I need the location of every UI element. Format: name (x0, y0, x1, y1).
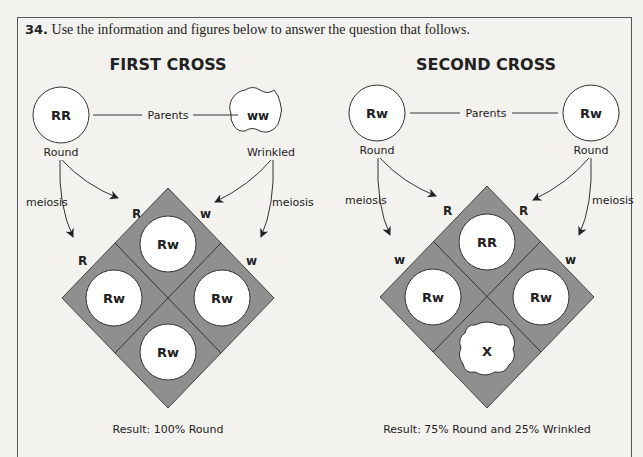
meiosis-arrow (579, 158, 591, 235)
offspring-genotype: Rw (157, 345, 179, 360)
second-cross-result: Result: 75% Round and 25% Wrinkled (383, 423, 591, 436)
meiosis-label: meiosis (345, 194, 387, 207)
offspring-genotype: X (482, 344, 492, 359)
offspring-genotype: Rw (103, 291, 125, 306)
offspring-genotype: Rw (530, 290, 552, 305)
gamete-label: w (394, 253, 405, 267)
first-cross: FIRST CROSS RR Round ww Wrinkled Parents… (26, 55, 314, 436)
gamete-label: R (519, 204, 528, 218)
first-cross-result: Result: 100% Round (113, 423, 224, 436)
offspring-genotype: Rw (422, 290, 444, 305)
parent-left-phenotype: Round (360, 144, 395, 157)
offspring-genotype: Rw (211, 291, 233, 306)
parent-left-genotype: Rw (366, 106, 388, 121)
gamete-label: w (565, 253, 576, 267)
meiosis-label: meiosis (272, 196, 314, 209)
parent-left-genotype: RR (51, 108, 71, 123)
meiosis-arrow (215, 160, 271, 202)
offspring-genotype: RR (477, 235, 497, 250)
parent-right-phenotype: Round (574, 144, 609, 157)
meiosis-label: meiosis (592, 194, 634, 207)
parents-label: Parents (466, 107, 507, 120)
meiosis-arrow (62, 160, 118, 198)
gamete-label: w (200, 207, 211, 221)
parents-label: Parents (148, 109, 189, 122)
second-cross-title: SECOND CROSS (416, 55, 556, 74)
offspring-genotype: Rw (157, 237, 179, 252)
meiosis-arrow (380, 158, 436, 196)
meiosis-label: meiosis (26, 196, 68, 209)
gamete-label: R (443, 204, 452, 218)
first-cross-title: FIRST CROSS (109, 55, 226, 74)
parent-left-phenotype: Round (44, 146, 79, 159)
parent-right-genotype: ww (247, 109, 269, 123)
gamete-label: R (78, 254, 87, 268)
meiosis-arrow (533, 158, 589, 200)
gamete-label: w (246, 254, 257, 268)
parent-right-phenotype: Wrinkled (247, 146, 295, 159)
second-cross: SECOND CROSS Rw Round Rw Round Parents m… (345, 55, 634, 436)
parent-right-genotype: Rw (580, 106, 602, 121)
